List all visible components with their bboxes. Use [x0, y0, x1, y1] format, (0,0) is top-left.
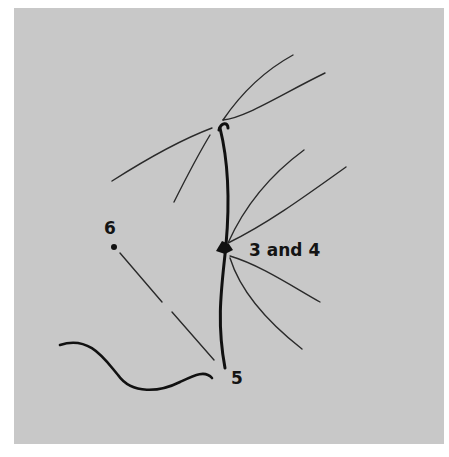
- wavy-line: [60, 343, 212, 390]
- label-point-5: 5: [231, 370, 243, 387]
- label-point-6: 6: [104, 220, 116, 237]
- line-drawing: [0, 0, 449, 457]
- point-6-dot: [111, 244, 117, 250]
- junction-marker: [216, 241, 233, 254]
- label-point-3-and-4: 3 and 4: [249, 242, 320, 259]
- dashed-line-6-to-5: [120, 253, 214, 360]
